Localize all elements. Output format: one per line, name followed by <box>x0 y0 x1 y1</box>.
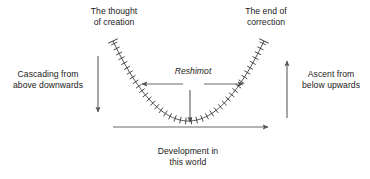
reshimot-tick <box>136 84 142 88</box>
reshimot-tick <box>214 108 218 113</box>
diagram-canvas: The thought of creation The end of corre… <box>0 0 370 179</box>
label-line-1: Ascent from <box>292 69 370 80</box>
label-line-1: Development in <box>140 146 236 157</box>
reshimot-tick <box>252 56 258 59</box>
parabola-path <box>113 41 264 121</box>
reshimot-tick <box>236 84 242 88</box>
reshimot-tick <box>121 61 127 64</box>
label-development-in-this-world: Development in this world <box>140 146 236 168</box>
reshimot-tick <box>239 80 245 84</box>
label-line-2: of creation <box>62 17 166 28</box>
label-line-2: above downwards <box>2 80 94 91</box>
reshimot-tick <box>164 111 168 117</box>
label-cascading-from-above-downwards: Cascading from above downwards <box>2 69 94 91</box>
label-end-of-correction: The end of correction <box>214 6 318 28</box>
label-line-1: Cascading from <box>2 69 94 80</box>
label-ascent-from-below-upwards: Ascent from below upwards <box>292 69 370 91</box>
reshimot-tick <box>133 80 139 84</box>
label-reshimot: Reshimot <box>158 66 228 77</box>
reshimot-tick <box>255 52 261 55</box>
reshimot-tick <box>205 113 208 119</box>
reshimot-tick <box>247 66 253 69</box>
reshimot-tick <box>242 75 248 79</box>
label-line-2: this world <box>140 157 236 168</box>
reshimot-tick <box>186 118 187 125</box>
reshimot-tick <box>119 57 125 60</box>
label-line-2: below upwards <box>292 80 370 91</box>
label-line-2: correction <box>214 17 318 28</box>
reshimot-tick <box>250 61 256 64</box>
reshimot-tick <box>210 111 214 117</box>
reshimot-tick <box>244 71 250 75</box>
label-line-1: The thought <box>62 6 166 17</box>
label-thought-of-creation: The thought of creation <box>62 6 166 28</box>
reshimot-curve <box>108 39 268 125</box>
reshimot-tick <box>116 52 122 55</box>
reshimot-tick <box>232 88 237 92</box>
reshimot-tick <box>257 47 263 50</box>
reshimot-tick <box>169 113 172 119</box>
label-line-1: The end of <box>214 6 318 17</box>
reshimot-tick <box>139 89 144 93</box>
reshimot-tick <box>130 75 136 79</box>
reshimot-tick <box>124 66 130 69</box>
reshimot-tick <box>127 71 133 75</box>
reshimot-tick <box>159 108 163 113</box>
reshimot-tick <box>191 118 192 125</box>
reshimot-tick <box>114 47 120 50</box>
